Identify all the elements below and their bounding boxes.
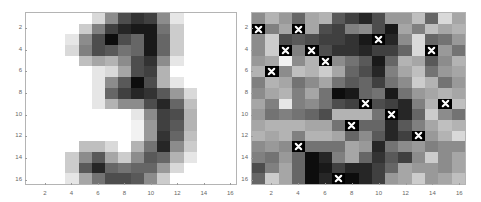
pixel-cell: [79, 120, 92, 131]
pixel-cell: [52, 141, 65, 152]
pixel-cell: [79, 88, 92, 99]
pixel-cell: [292, 56, 305, 67]
x-marker-icon: [280, 45, 291, 56]
pixel-cell: [265, 88, 278, 99]
pixel-cell: [452, 120, 465, 131]
pixel-cell: [252, 109, 265, 120]
pixel-cell: [265, 13, 278, 24]
pixel-cell: [65, 88, 78, 99]
pixel-cell: [170, 24, 183, 35]
pixel-cell: [252, 163, 265, 174]
pixel-cell: [26, 13, 39, 24]
pixel-cell: [26, 173, 39, 184]
pixel-cell: [131, 88, 144, 99]
pixel-cell: [92, 45, 105, 56]
pixel-cell: [279, 173, 292, 184]
pixel-cell: [332, 141, 345, 152]
y-tick-label: 4: [8, 46, 22, 52]
pixel-cell: [279, 163, 292, 174]
pixel-cell: [452, 99, 465, 110]
pixel-cell: [372, 77, 385, 88]
pixel-cell: [52, 77, 65, 88]
y-tick: [25, 180, 27, 181]
pixel-cell: [210, 109, 223, 120]
pixel-cell: [332, 77, 345, 88]
pixel-cell: [319, 120, 332, 131]
pixel-cell: [144, 24, 157, 35]
pixel-cell: [252, 77, 265, 88]
pixel-cell: [39, 131, 52, 142]
y-tick-label: 2: [8, 24, 22, 30]
pixel-cell: [252, 56, 265, 67]
x-tick: [325, 183, 326, 185]
y-tick-label: 8: [8, 89, 22, 95]
pixel-cell: [92, 34, 105, 45]
pixel-cell: [144, 141, 157, 152]
pixel-cell: [65, 45, 78, 56]
pixel-cell: [412, 24, 425, 35]
y-tick: [25, 50, 27, 51]
pixel-cell: [52, 34, 65, 45]
pixel-cell: [144, 66, 157, 77]
pixel-cell: [65, 120, 78, 131]
pixel-cell: [359, 152, 372, 163]
pixel-cell: [144, 99, 157, 110]
pixel-cell: [425, 152, 438, 163]
pixel-cell: [265, 56, 278, 67]
pixel-cell: [105, 99, 118, 110]
x-tick: [204, 183, 205, 185]
pixel-cell: [92, 152, 105, 163]
pixel-cell: [184, 120, 197, 131]
pixel-cell: [412, 120, 425, 131]
pixel-cell: [359, 24, 372, 35]
pixel-cell: [265, 141, 278, 152]
pixel-cell: [39, 152, 52, 163]
pixel-cell: [52, 173, 65, 184]
pixel-cell: [144, 152, 157, 163]
pixel-cell: [197, 24, 210, 35]
pixel-cell: [412, 173, 425, 184]
pixel-cell: [279, 131, 292, 142]
pixel-cell: [305, 109, 318, 120]
pixel-cell: [345, 141, 358, 152]
y-tick: [251, 158, 253, 159]
pixel-cell: [118, 56, 131, 67]
pixel-cell: [438, 131, 451, 142]
pixel-cell: [252, 66, 265, 77]
pixel-cell: [359, 141, 372, 152]
pixel-cell: [118, 77, 131, 88]
pixel-cell: [438, 88, 451, 99]
pixel-cell: [92, 77, 105, 88]
x-tick: [459, 183, 460, 185]
pixel-cell: [425, 120, 438, 131]
pixel-cell: [26, 109, 39, 120]
y-tick-label: 10: [8, 111, 22, 117]
pixel-cell: [170, 66, 183, 77]
y-tick: [25, 71, 27, 72]
pixel-cell: [279, 56, 292, 67]
pixel-cell: [345, 56, 358, 67]
pixel-cell: [52, 120, 65, 131]
pixel-cell: [292, 66, 305, 77]
pixel-cell: [438, 24, 451, 35]
pixel-cell: [252, 173, 265, 184]
pixel-cell: [210, 66, 223, 77]
pixel-cell: [144, 13, 157, 24]
x-tick: [124, 183, 125, 185]
pixel-cell: [105, 120, 118, 131]
pixel-cell: [26, 56, 39, 67]
pixel-cell: [319, 34, 332, 45]
pixel-cell: [265, 163, 278, 174]
pixel-cell: [279, 109, 292, 120]
pixel-cell: [118, 152, 131, 163]
pixel-cell: [332, 120, 345, 131]
pixel-cell: [39, 24, 52, 35]
pixel-cell: [144, 88, 157, 99]
pixel-cell: [79, 45, 92, 56]
y-tick: [251, 93, 253, 94]
x-tick-label: 8: [345, 190, 359, 196]
pixel-cell: [345, 77, 358, 88]
pixel-cell: [398, 141, 411, 152]
pixel-cell: [210, 77, 223, 88]
pixel-cell: [39, 141, 52, 152]
